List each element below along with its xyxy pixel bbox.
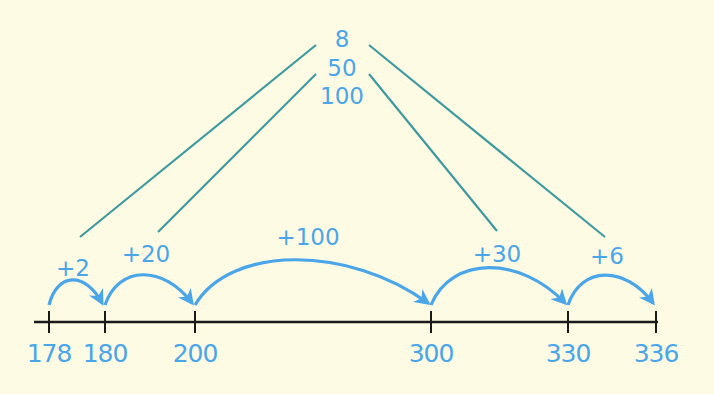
jump-arc-200-to-300 — [195, 260, 428, 305]
jump-arc-330-to-336 — [568, 275, 653, 305]
connector-8-to-plus6 — [369, 45, 605, 237]
jump-arc-180-to-200 — [105, 275, 192, 305]
diagram-canvas: 8 50 100 178180200300330336 +2+20+100+30… — [0, 0, 714, 394]
tick-label-178: 178 — [27, 339, 72, 368]
addend-part-100: 100 — [320, 83, 364, 109]
tick-label-180: 180 — [83, 339, 128, 368]
jump-label-plus6: +6 — [590, 243, 624, 269]
jump-labels: +2+20+100+30+6 — [56, 224, 624, 281]
jump-arc-300-to-330 — [431, 268, 565, 305]
jump-label-plus30: +30 — [473, 241, 522, 267]
jump-label-plus100: +100 — [276, 224, 339, 250]
number-line-diagram: 8 50 100 178180200300330336 +2+20+100+30… — [0, 0, 714, 394]
connector-8-to-plus2 — [80, 45, 316, 237]
jump-label-plus20: +20 — [122, 241, 171, 267]
tick-label-330: 330 — [546, 339, 591, 368]
tick-label-300: 300 — [409, 339, 454, 368]
tick-labels: 178180200300330336 — [27, 339, 679, 368]
tick-label-336: 336 — [634, 339, 679, 368]
jump-label-plus2: +2 — [56, 255, 90, 281]
addend-stack: 8 50 100 — [320, 26, 364, 109]
addend-part-50: 50 — [327, 55, 356, 81]
addend-part-8: 8 — [335, 26, 350, 52]
tick-label-200: 200 — [173, 339, 218, 368]
jump-arc-178-to-180 — [49, 280, 102, 305]
